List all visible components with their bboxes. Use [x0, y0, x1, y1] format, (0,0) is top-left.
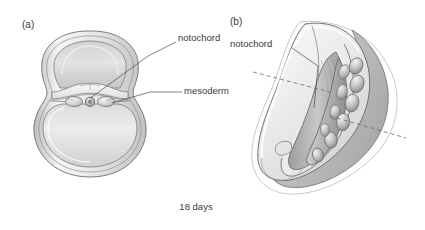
panel-a-id: (a): [22, 19, 34, 30]
label-notochord-b: notochord: [230, 38, 272, 49]
label-notochord-a: notochord: [178, 32, 220, 43]
mesoderm-lobe-right-a: [98, 97, 115, 107]
panel-b: (b): [230, 16, 406, 195]
somite-medial-4-b: [320, 123, 329, 136]
panel-a-drawing: [34, 31, 146, 177]
mesoderm-lobe-left-a: [66, 97, 83, 107]
figure-caption: 18 days: [179, 201, 213, 212]
label-mesoderm-a: mesoderm: [184, 85, 229, 96]
embryo-notochord-figure: (a): [0, 0, 425, 230]
panel-b-id: (b): [230, 16, 242, 27]
amniotic-cavity-a: [54, 41, 126, 88]
panel-a: (a): [22, 19, 229, 212]
notochord-core-a: [88, 100, 91, 103]
panel-b-drawing: [252, 21, 397, 194]
